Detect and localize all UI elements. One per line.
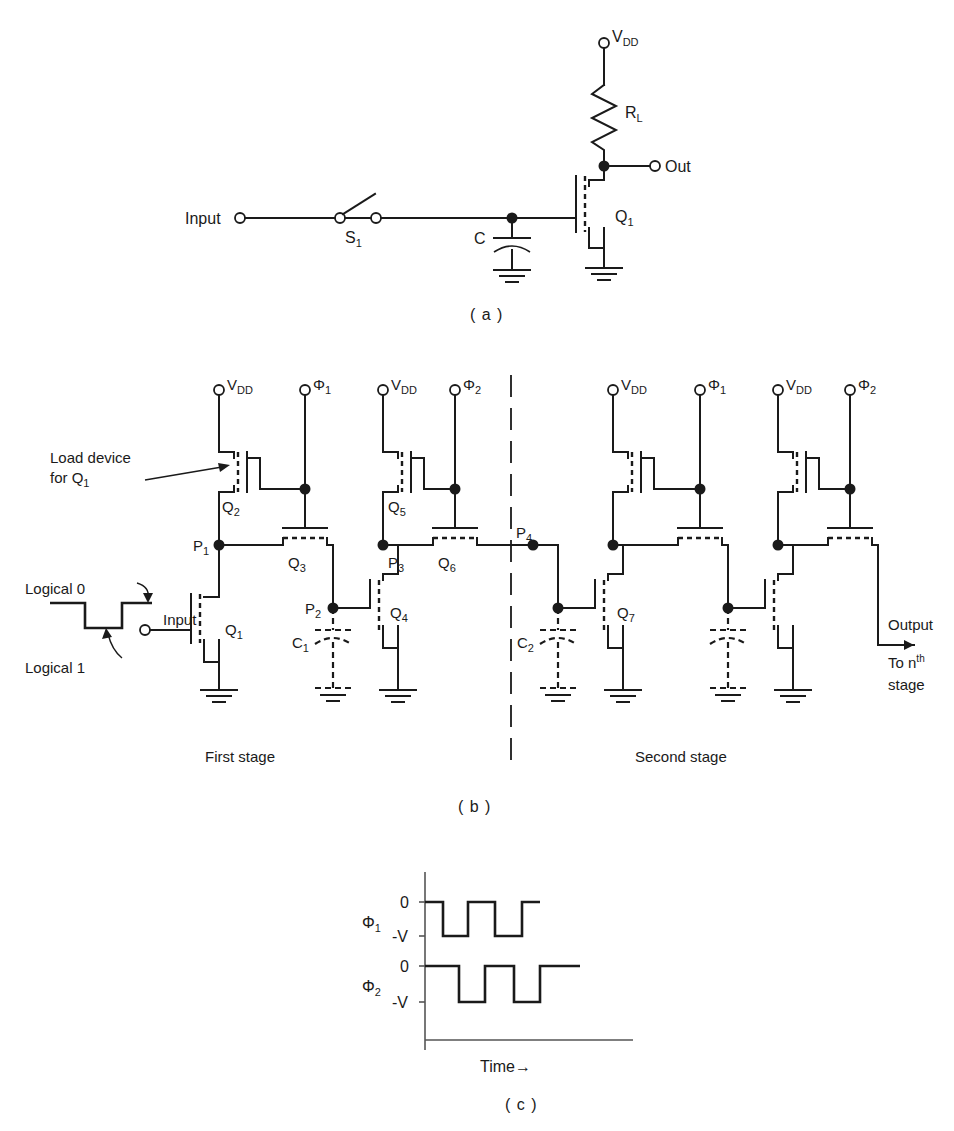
logical0-arrow-head [143, 593, 153, 603]
vdd-label-b4: VDD [786, 376, 812, 396]
logical1-arrow-head [102, 628, 112, 639]
ld4-source-tab [778, 486, 793, 492]
load-annotation-line1: Load device [50, 449, 131, 466]
node-label-p1: P1 [193, 537, 209, 557]
resistor-label-a: RL [625, 104, 643, 124]
q7-drain-tab [608, 574, 623, 580]
node-label-p2: P2 [305, 600, 321, 620]
q5-gate-lead [411, 458, 424, 489]
vdd-terminal-b3 [608, 385, 618, 395]
node-label-p4: P4 [516, 524, 532, 544]
ground-q7 [605, 690, 641, 702]
ground-c2 [540, 688, 576, 701]
transistor-label-q7: Q7 [617, 604, 635, 624]
cap-label-c1: C1 [292, 634, 309, 654]
phi1-waveform [425, 902, 540, 936]
ground-q1a [586, 268, 622, 280]
phi1-terminal-b3 [695, 385, 705, 395]
panel-caption-a: ( a ) [470, 306, 503, 323]
q4-source-tab [383, 626, 398, 648]
phi2-zero-label: 0 [400, 958, 409, 975]
transistor-label-q1-a: Q1 [615, 208, 634, 228]
vdd-terminal-b1 [214, 385, 224, 395]
ld3-gate-lead [641, 458, 654, 489]
time-axis-label: Time→ [480, 1058, 531, 1075]
q1a-source-tab [589, 228, 604, 248]
phi2-label-b4: Φ2 [858, 376, 876, 396]
phi2-terminal-b2 [450, 385, 460, 395]
pass3-left-tab [613, 538, 678, 545]
transistor-label-q6: Q6 [438, 554, 456, 574]
transistor-label-q4: Q4 [390, 604, 408, 624]
switch-right-contact [371, 213, 381, 223]
vdd-terminal-b2 [378, 385, 388, 395]
switch-label-s1: S1 [345, 229, 362, 249]
output-arrow-head [904, 640, 914, 650]
vdd-label-b1: VDD [227, 376, 253, 396]
ground-cap3 [710, 688, 746, 701]
ld3-drain-tab [613, 452, 628, 458]
load-annotation-line2: for Q1 [50, 469, 89, 489]
to-nth-stage-line1: To nth [888, 653, 925, 671]
q2-source-tab [219, 486, 234, 492]
load-annotation-arrow-head [218, 463, 230, 472]
phi1-label-b1: Φ1 [313, 376, 331, 396]
transistor-label-q2: Q2 [222, 498, 240, 518]
ground-q1-b [201, 690, 237, 702]
input-terminal-b [140, 625, 150, 635]
ground-c1 [315, 688, 351, 701]
phi1-zero-label: 0 [400, 894, 409, 911]
circuit-figure: VDD RL Out Input S1 C Q1 ( a ) [0, 0, 954, 1131]
vdd-label-a: VDD [612, 28, 639, 48]
out-label-a: Out [665, 158, 691, 175]
phi2-trace-label: Φ2 [362, 978, 381, 998]
drv4-drain-tab [778, 574, 793, 580]
q5-drain-tab [383, 452, 398, 458]
panel-c: 0 -V 0 -V Φ1 Φ2 Time→ ( c ) [362, 872, 633, 1113]
q3-right-tab-a [327, 538, 333, 545]
switch-blade-s1[interactable] [343, 194, 375, 214]
node-label-p3: P3 [388, 554, 404, 574]
second-stage-label: Second stage [635, 748, 727, 765]
q2-gate-lead [247, 458, 260, 489]
panel-caption-c: ( c ) [505, 1096, 538, 1113]
transistor-label-q3: Q3 [288, 554, 306, 574]
q2-drain-tab [219, 452, 234, 458]
panel-b: VDD Φ1 VDD Φ2 VDD Φ1 VDD Φ2 [25, 375, 934, 815]
out-terminal [650, 161, 660, 171]
ground-q4 [380, 690, 416, 702]
phi2-negv-label: -V [392, 994, 408, 1011]
first-stage-label: First stage [205, 748, 275, 765]
p4-to-q7-gate [533, 545, 558, 608]
q3-left-tab [219, 538, 283, 545]
vdd-label-b2: VDD [391, 376, 417, 396]
q5-source-tab [383, 486, 398, 492]
input-label-a: Input [185, 210, 221, 227]
vdd-terminal-b4 [773, 385, 783, 395]
phi1-terminal-b1 [300, 385, 310, 395]
phi2-label-b2: Φ2 [463, 376, 481, 396]
logical-1-label: Logical 1 [25, 659, 85, 676]
panel-caption-b: ( b ) [458, 798, 491, 815]
pass4-left-tab [778, 538, 828, 545]
q6-left-tab [383, 538, 433, 545]
q1-source-tab [204, 640, 219, 662]
top-terminals-b [214, 385, 855, 489]
cap-label-c2: C2 [517, 634, 534, 654]
ld4-gate-lead [806, 458, 819, 489]
q4-drain-tab [383, 574, 398, 580]
logical1-arrow-line [108, 634, 122, 658]
input-label-b: Input [163, 611, 197, 628]
phi1-negv-label: -V [392, 928, 408, 945]
output-label-b: Output [888, 616, 934, 633]
ground-cap-a [494, 270, 530, 282]
cap-label-a: C [474, 230, 486, 247]
load-annotation-arrow-line [145, 467, 222, 480]
ground-drv4 [775, 690, 811, 702]
transistor-label-q5: Q5 [388, 498, 406, 518]
phi2-terminal-b4 [845, 385, 855, 395]
drv4-source-tab [778, 626, 793, 648]
vdd-label-b3: VDD [621, 376, 647, 396]
pass3-right-tab [722, 538, 728, 545]
ld4-drain-tab [778, 452, 793, 458]
